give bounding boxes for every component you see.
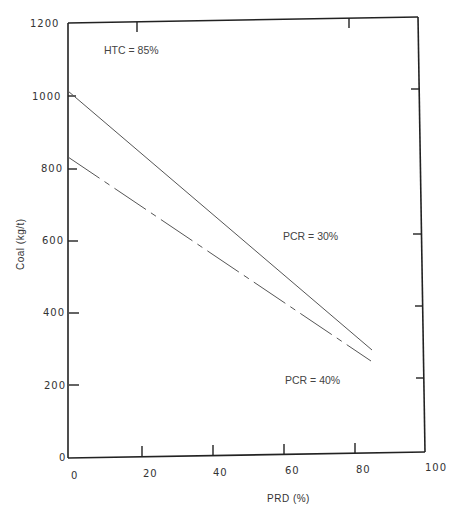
y-tick-1000: 1000 bbox=[32, 91, 61, 102]
x-tick-0: 0 bbox=[71, 470, 78, 481]
annotation-pcr-40: PCR = 40% bbox=[285, 374, 340, 386]
y-tick-200: 200 bbox=[44, 380, 66, 391]
axis-ticks bbox=[68, 18, 423, 457]
series-pcr-30-line bbox=[68, 91, 372, 350]
y-tick-1200: 1200 bbox=[30, 18, 59, 29]
plot-frame bbox=[68, 17, 425, 458]
y-tick-400: 400 bbox=[43, 307, 65, 318]
x-tick-60: 60 bbox=[285, 465, 300, 476]
x-axis-title: PRD (%) bbox=[267, 493, 310, 504]
y-tick-600: 600 bbox=[42, 235, 64, 246]
chart: 1200 1000 800 600 400 200 0 0 20 40 60 8… bbox=[0, 0, 456, 518]
y-tick-0: 0 bbox=[59, 452, 66, 463]
x-tick-20: 20 bbox=[143, 468, 158, 479]
x-tick-80: 80 bbox=[356, 464, 371, 475]
x-tick-100: 100 bbox=[425, 462, 447, 473]
annotation-pcr-30: PCR = 30% bbox=[283, 230, 338, 242]
x-tick-40: 40 bbox=[213, 467, 228, 478]
annotation-htc: HTC = 85% bbox=[104, 44, 159, 56]
series-pcr-40-line bbox=[68, 157, 371, 361]
y-axis-title: Coal (kg/t) bbox=[15, 218, 26, 270]
y-tick-800: 800 bbox=[41, 163, 63, 174]
